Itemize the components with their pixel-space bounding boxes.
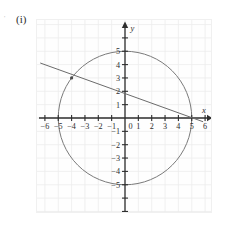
y-tick-label: −1 (111, 127, 120, 136)
x-tick-label: −3 (81, 122, 90, 131)
figure-page: ' (i) −6−5−4−3−2−1012345654321−1−2−3−4−5… (0, 0, 230, 232)
x-tick-label: −2 (94, 122, 103, 131)
data-line (40, 63, 203, 122)
y-tick-label: 4 (116, 61, 120, 70)
x-tick-label: 4 (176, 122, 180, 131)
y-tick-label: 5 (116, 47, 120, 56)
x-tick-label: 0 (129, 122, 133, 131)
axes-and-data-layer: −6−5−4−3−2−1012345654321−1−2−3−4−5xy (37, 20, 212, 213)
y-tick-label: 1 (116, 101, 120, 110)
x-tick-label: −5 (54, 122, 63, 131)
x-tick-label: −4 (67, 122, 76, 131)
x-axis-label: x (201, 105, 206, 115)
margin-tick-mark: ' (4, 14, 5, 22)
plot-area: −6−5−4−3−2−1012345654321−1−2−3−4−5xy (36, 19, 212, 213)
y-tick-label: −3 (111, 154, 120, 163)
figure-label: (i) (16, 13, 26, 25)
x-tick-label: 5 (190, 122, 194, 131)
x-tick-label: 6 (203, 122, 207, 131)
x-tick-label: 3 (163, 122, 167, 131)
marked-intersection-point (70, 76, 73, 79)
y-axis-label: y (130, 23, 135, 33)
x-tick-label: 1 (136, 122, 140, 131)
x-tick-label: 2 (150, 122, 154, 131)
y-tick-label: −4 (111, 167, 120, 176)
y-tick-label: −2 (111, 141, 120, 150)
y-tick-label: −5 (111, 181, 120, 190)
y-tick-label: 3 (116, 74, 120, 83)
x-tick-label: −6 (41, 122, 50, 131)
